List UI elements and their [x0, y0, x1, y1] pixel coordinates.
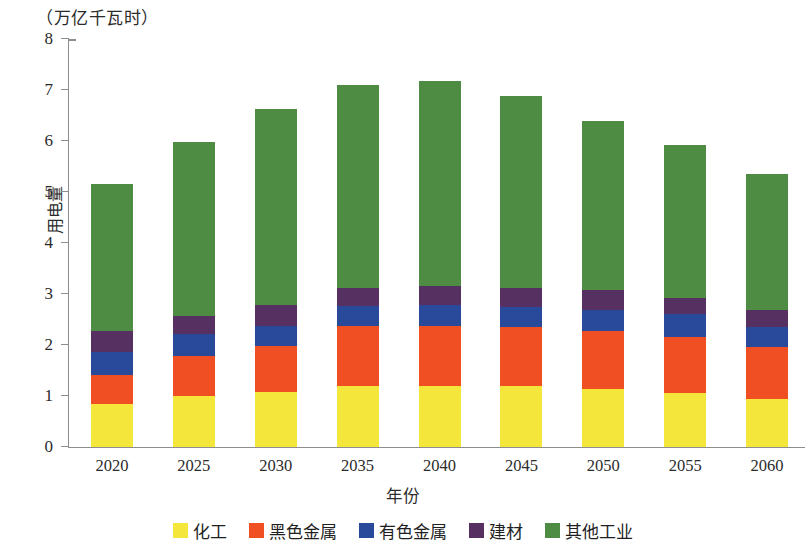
x-axis-label: 年份	[0, 483, 805, 507]
y-axis-tick: 4	[61, 242, 69, 243]
bar-segment[interactable]	[419, 286, 461, 305]
legend-swatch-icon	[359, 523, 374, 538]
y-axis-tick: 2	[61, 344, 69, 345]
x-axis-tick-label: 2020	[67, 448, 157, 476]
bar-segment[interactable]	[91, 331, 133, 352]
legend-label: 化工	[193, 518, 227, 543]
bar-segment[interactable]	[582, 331, 624, 389]
y-axis-tick-label: 1	[45, 387, 54, 404]
legend-swatch-icon	[545, 523, 560, 538]
bar-segment[interactable]	[419, 305, 461, 326]
legend-item[interactable]: 其他工业	[545, 518, 633, 543]
legend-item[interactable]: 建材	[469, 518, 523, 543]
y-axis-tick-label: 6	[45, 132, 54, 149]
bar-segment[interactable]	[582, 121, 624, 290]
bar-segment[interactable]	[664, 145, 706, 298]
bar-segment[interactable]	[664, 393, 706, 447]
bar-segment[interactable]	[337, 85, 379, 288]
bar-segment[interactable]	[419, 81, 461, 286]
legend-item[interactable]: 化工	[173, 518, 227, 543]
bar-segment[interactable]	[255, 109, 297, 305]
bar-group[interactable]	[91, 39, 133, 447]
bar-segment[interactable]	[337, 326, 379, 386]
legend-label: 建材	[489, 518, 523, 543]
y-axis-tick: 8	[61, 38, 69, 39]
bar-segment[interactable]	[746, 347, 788, 399]
legend-label: 其他工业	[565, 518, 633, 543]
bar-segment[interactable]	[91, 184, 133, 331]
plot-area: 012345678 202020252030203520402045205020…	[68, 40, 805, 448]
bar-segment[interactable]	[582, 310, 624, 331]
bar-group[interactable]	[173, 39, 215, 447]
legend-label: 黑色金属	[269, 518, 337, 543]
legend-item[interactable]: 黑色金属	[249, 518, 337, 543]
bar-segment[interactable]	[746, 399, 788, 447]
bar-group[interactable]	[500, 39, 542, 447]
bar-segment[interactable]	[500, 386, 542, 447]
x-axis-tick-label: 2035	[313, 448, 403, 476]
x-axis-tick-label: 2055	[640, 448, 730, 476]
y-axis-tick: 5	[61, 191, 69, 192]
bar-segment[interactable]	[173, 316, 215, 334]
bar-segment[interactable]	[91, 404, 133, 447]
bar-segment[interactable]	[664, 314, 706, 337]
chart-unit-title: （万亿千瓦时）	[36, 4, 159, 29]
legend-label: 有色金属	[379, 518, 447, 543]
x-axis-tick-label: 2045	[476, 448, 566, 476]
y-axis-tick-label: 5	[45, 183, 54, 200]
bar-segment[interactable]	[337, 386, 379, 447]
bar-group[interactable]	[746, 39, 788, 447]
bar-segment[interactable]	[500, 327, 542, 386]
bar-segment[interactable]	[582, 290, 624, 310]
bar-segment[interactable]	[173, 334, 215, 356]
bar-group[interactable]	[582, 39, 624, 447]
legend-swatch-icon	[173, 523, 188, 538]
y-axis-tick-label: 3	[45, 285, 54, 302]
bar-segment[interactable]	[173, 142, 215, 316]
x-axis-tick-label: 2060	[722, 448, 805, 476]
y-axis-tick-label: 7	[45, 81, 54, 98]
bar-segment[interactable]	[582, 389, 624, 447]
y-axis-tick-label: 2	[45, 336, 54, 353]
bar-segment[interactable]	[337, 288, 379, 306]
bar-group[interactable]	[664, 39, 706, 447]
bar-segment[interactable]	[500, 307, 542, 327]
bar-segment[interactable]	[746, 174, 788, 310]
bar-series-container	[69, 40, 805, 447]
bar-segment[interactable]	[255, 346, 297, 392]
legend-item[interactable]: 有色金属	[359, 518, 447, 543]
bar-segment[interactable]	[500, 96, 542, 288]
y-axis-label: 用电量	[42, 150, 66, 270]
bar-group[interactable]	[337, 39, 379, 447]
bar-segment[interactable]	[500, 288, 542, 307]
bar-segment[interactable]	[173, 396, 215, 447]
legend-swatch-icon	[249, 523, 264, 538]
x-axis-tick-label: 2040	[395, 448, 485, 476]
x-axis-tick-label: 2050	[558, 448, 648, 476]
y-axis-tick-label: 8	[45, 30, 54, 47]
bar-segment[interactable]	[255, 392, 297, 447]
bar-group[interactable]	[255, 39, 297, 447]
bar-segment[interactable]	[419, 326, 461, 386]
y-axis-tick: 6	[61, 140, 69, 141]
bar-segment[interactable]	[746, 327, 788, 347]
x-axis-tick-label: 2030	[231, 448, 321, 476]
y-axis-tick: 3	[61, 293, 69, 294]
bar-segment[interactable]	[255, 305, 297, 326]
bar-segment[interactable]	[255, 326, 297, 346]
bar-segment[interactable]	[337, 306, 379, 326]
stacked-bar-chart: （万亿千瓦时） 用电量 012345678 202020252030203520…	[0, 0, 805, 544]
y-axis-tick-label: 0	[45, 438, 54, 455]
bar-segment[interactable]	[664, 337, 706, 393]
bar-segment[interactable]	[746, 310, 788, 327]
bar-segment[interactable]	[419, 386, 461, 447]
y-axis-tick-label: 4	[45, 234, 54, 251]
y-axis-tick: 0	[61, 446, 69, 447]
bar-segment[interactable]	[664, 298, 706, 314]
bar-segment[interactable]	[173, 356, 215, 396]
bar-segment[interactable]	[91, 352, 133, 375]
legend-swatch-icon	[469, 523, 484, 538]
bar-group[interactable]	[419, 39, 461, 447]
bar-segment[interactable]	[91, 375, 133, 404]
y-axis-tick: 1	[61, 395, 69, 396]
